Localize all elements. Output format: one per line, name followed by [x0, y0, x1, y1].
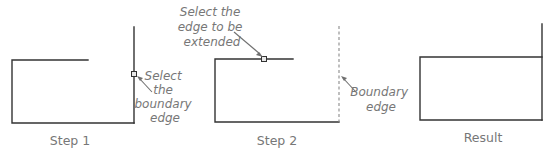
panel-step-2: Select the edge to be extended Boundary …	[178, 5, 412, 148]
callout-select-boundary: Select the boundary edge	[134, 69, 195, 125]
caption-step-1: Step 1	[50, 133, 90, 148]
caption-result: Result	[464, 130, 503, 145]
pickbox-icon	[262, 57, 267, 62]
pickbox-icon	[132, 72, 137, 77]
callout-boundary-edge: Boundary edge	[350, 85, 412, 114]
panel-result: Result	[420, 24, 542, 145]
extend-command-diagram: Select the boundary edge Step 1 Select t…	[0, 0, 552, 155]
panel-step-1: Select the boundary edge Step 1	[12, 27, 196, 148]
caption-step-2: Step 2	[257, 133, 297, 148]
open-shape-outline	[215, 59, 339, 122]
callout-select-edge: Select the edge to be extended	[178, 5, 247, 49]
open-shape-outline	[12, 60, 134, 123]
extended-shape-outline	[420, 57, 542, 120]
